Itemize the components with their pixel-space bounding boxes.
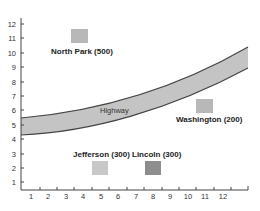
y-tick-label: 1 — [12, 178, 16, 187]
location-lincoln: Lincoln (300) — [132, 150, 182, 175]
x-tick-label: 12 — [219, 192, 227, 201]
y-tick-labels: 1 2 3 4 5 6 7 8 9 10 11 12 — [8, 20, 16, 187]
x-tick-label: 7 — [134, 192, 138, 201]
lincoln-label: Lincoln (300) — [132, 150, 182, 159]
y-tick-label: 12 — [8, 20, 16, 29]
x-tick-labels: 1 2 3 4 5 6 7 8 9 10 11 12 — [29, 192, 227, 201]
x-tick-label: 11 — [201, 192, 209, 201]
town-map-diagram: Highway 1 2 3 4 5 6 7 8 — [0, 0, 260, 211]
y-tick-label: 8 — [12, 78, 16, 87]
x-tick-label: 8 — [151, 192, 155, 201]
washington-square — [196, 99, 213, 113]
north-park-label: North Park (500) — [51, 47, 113, 56]
location-north-park: North Park (500) — [51, 29, 113, 56]
y-tick-label: 9 — [12, 63, 16, 72]
y-tick-label: 10 — [8, 49, 16, 58]
y-tick-label: 6 — [12, 106, 16, 115]
x-tick-label: 10 — [184, 192, 192, 201]
y-tick-label: 7 — [12, 92, 16, 101]
location-washington: Washington (200) — [176, 99, 243, 124]
y-tick-label: 11 — [8, 34, 16, 43]
north-park-square — [71, 29, 88, 43]
y-tick-label: 3 — [12, 150, 16, 159]
y-tick-label: 2 — [12, 164, 16, 173]
location-jefferson: Jefferson (300) — [73, 150, 130, 175]
x-tick-label: 6 — [116, 192, 120, 201]
jefferson-label: Jefferson (300) — [73, 150, 130, 159]
x-tick-label: 9 — [168, 192, 172, 201]
highway-label: Highway — [100, 106, 129, 115]
y-tick-label: 5 — [12, 121, 16, 130]
x-tick-label: 2 — [46, 192, 50, 201]
x-tick-label: 5 — [99, 192, 103, 201]
lincoln-square — [145, 161, 161, 175]
x-tick-label: 3 — [64, 192, 68, 201]
jefferson-square — [92, 161, 108, 175]
x-ticks — [40, 186, 248, 190]
y-tick-label: 4 — [12, 135, 16, 144]
x-tick-label: 4 — [81, 192, 85, 201]
washington-label: Washington (200) — [176, 115, 243, 124]
x-tick-label: 1 — [29, 192, 33, 201]
